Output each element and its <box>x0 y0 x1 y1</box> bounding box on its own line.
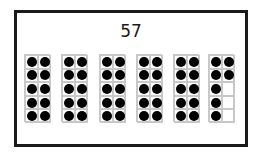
frame-cell <box>222 82 235 96</box>
frame-cell <box>62 69 75 83</box>
frame-cell <box>209 109 222 123</box>
frame-cell <box>75 82 88 96</box>
frame-cell <box>100 96 113 110</box>
counter-dot-icon <box>139 98 149 108</box>
frame-cell <box>38 96 51 110</box>
counter-dot-icon <box>176 111 186 121</box>
counter-dot-icon <box>224 57 234 67</box>
counter-dot-icon <box>40 57 50 67</box>
counter-dot-icon <box>77 111 87 121</box>
frame-cell <box>113 55 126 69</box>
frame-cell <box>209 69 222 83</box>
frame-cell <box>174 96 187 110</box>
frame-cell <box>137 55 150 69</box>
counter-dot-icon <box>40 84 50 94</box>
frame-cell <box>100 55 113 69</box>
frame-cell <box>38 55 51 69</box>
frame-cell <box>62 82 75 96</box>
counter-dot-icon <box>211 70 221 80</box>
frame-cell <box>209 82 222 96</box>
counter-dot-icon <box>77 84 87 94</box>
frame-cell <box>25 82 38 96</box>
counter-dot-icon <box>211 84 221 94</box>
counter-dot-icon <box>152 57 162 67</box>
ten-frame <box>99 54 125 122</box>
counter-dot-icon <box>102 111 112 121</box>
counter-dot-icon <box>64 84 74 94</box>
counter-dot-icon <box>211 111 221 121</box>
frame-cell <box>75 109 88 123</box>
counter-dot-icon <box>102 98 112 108</box>
frame-cell <box>113 109 126 123</box>
counter-dot-icon <box>64 70 74 80</box>
ten-frames-group <box>24 54 240 122</box>
frame-cell <box>113 82 126 96</box>
counter-dot-icon <box>27 84 37 94</box>
frame-cell <box>222 69 235 83</box>
counter-dot-icon <box>102 84 112 94</box>
frame-cell <box>25 69 38 83</box>
ten-frame <box>136 54 162 122</box>
frame-cell <box>25 55 38 69</box>
frame-cell <box>75 55 88 69</box>
counter-dot-icon <box>64 111 74 121</box>
counter-dot-icon <box>189 70 199 80</box>
counter-dot-icon <box>139 70 149 80</box>
ten-frame <box>24 54 50 122</box>
frame-cell <box>187 82 200 96</box>
frame-cell <box>38 109 51 123</box>
ten-frame <box>208 54 234 122</box>
counter-dot-icon <box>64 57 74 67</box>
counter-dot-icon <box>77 98 87 108</box>
frame-cell <box>137 82 150 96</box>
frame-cell <box>222 109 235 123</box>
frame-cell <box>187 55 200 69</box>
frame-cell <box>137 109 150 123</box>
counter-dot-icon <box>189 84 199 94</box>
frame-cell <box>222 55 235 69</box>
frame-cell <box>25 96 38 110</box>
counter-dot-icon <box>176 84 186 94</box>
frame-cell <box>62 55 75 69</box>
counter-dot-icon <box>115 98 125 108</box>
frame-cell <box>150 82 163 96</box>
ten-frame <box>173 54 199 122</box>
counter-dot-icon <box>176 98 186 108</box>
frame-cell <box>150 55 163 69</box>
counter-dot-icon <box>189 98 199 108</box>
counter-dot-icon <box>115 57 125 67</box>
counter-dot-icon <box>115 84 125 94</box>
counter-dot-icon <box>176 70 186 80</box>
frame-cell <box>38 82 51 96</box>
frame-cell <box>209 96 222 110</box>
counter-dot-icon <box>115 111 125 121</box>
frame-cell <box>174 55 187 69</box>
counter-dot-icon <box>224 70 234 80</box>
counter-dot-icon <box>211 98 221 108</box>
frame-cell <box>187 96 200 110</box>
frame-cell <box>222 96 235 110</box>
counter-dot-icon <box>27 98 37 108</box>
frame-cell <box>137 69 150 83</box>
counter-dot-icon <box>77 70 87 80</box>
counter-dot-icon <box>152 70 162 80</box>
counter-dot-icon <box>27 57 37 67</box>
frame-cell <box>113 69 126 83</box>
frame-cell <box>187 69 200 83</box>
counter-dot-icon <box>40 98 50 108</box>
counter-dot-icon <box>27 70 37 80</box>
counter-dot-icon <box>102 70 112 80</box>
counter-dot-icon <box>189 57 199 67</box>
frame-cell <box>100 69 113 83</box>
counter-dot-icon <box>139 111 149 121</box>
frame-cell <box>150 109 163 123</box>
counter-dot-icon <box>115 70 125 80</box>
frame-cell <box>174 109 187 123</box>
frame-cell <box>150 96 163 110</box>
counter-dot-icon <box>40 70 50 80</box>
counter-dot-icon <box>189 111 199 121</box>
number-label: 57 <box>17 21 245 41</box>
frame-cell <box>75 96 88 110</box>
counter-dot-icon <box>40 111 50 121</box>
frame-cell <box>209 55 222 69</box>
